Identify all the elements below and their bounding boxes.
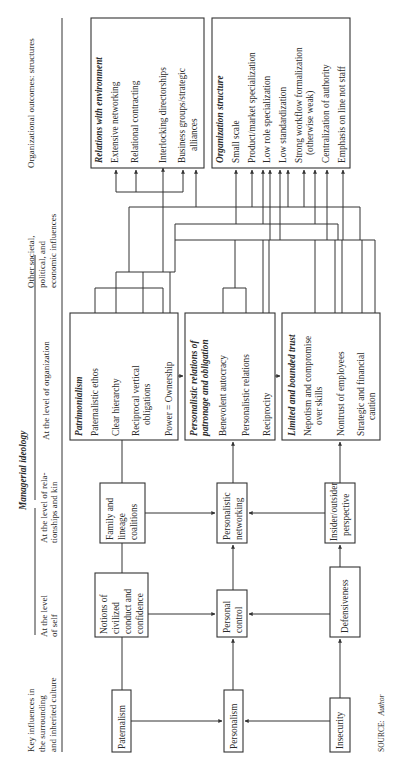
svg-text:Small scale: Small scale: [231, 120, 241, 163]
svg-text:Paternalism: Paternalism: [117, 704, 127, 749]
svg-text:Key influences in: Key influences in: [26, 688, 36, 752]
box-notions-civilized: Notions of civilized conduct and confide…: [95, 573, 148, 637]
svg-text:Low standardization: Low standardization: [278, 86, 288, 163]
svg-text:Reciprocity: Reciprocity: [262, 392, 272, 436]
svg-text:Relations with environment: Relations with environment: [94, 57, 104, 164]
svg-text:Business groups/strategic: Business groups/strategic: [177, 68, 187, 163]
svg-text:Notions of: Notions of: [99, 594, 109, 634]
svg-text:the surrounding: the surrounding: [37, 695, 47, 752]
box-relations-environment: Relations with environment Extensive net…: [91, 18, 204, 168]
svg-text:Organizational outcomes: struc: Organizational outcomes: structures: [26, 38, 36, 168]
svg-text:Emphasis on line not staff: Emphasis on line not staff: [337, 65, 347, 163]
svg-text:Personalistic relations: Personalistic relations: [241, 354, 251, 436]
box-personalistic-networking: Personalistic networking: [217, 483, 247, 543]
svg-text:Personalistic: Personalistic: [222, 492, 232, 540]
svg-text:confidence: confidence: [135, 593, 145, 634]
box-defensiveness: Defensiveness: [330, 567, 360, 637]
svg-text:Defensiveness: Defensiveness: [340, 579, 350, 633]
svg-text:and inherited culture: and inherited culture: [48, 678, 58, 752]
svg-text:Relational contracting: Relational contracting: [130, 80, 140, 163]
svg-text:political, and: political, and: [37, 241, 47, 288]
svg-text:Interlocking directorships: Interlocking directorships: [158, 67, 168, 163]
svg-text:At the level of rela-: At the level of rela-: [39, 473, 49, 543]
box-organization-structure: Organization structure Small scale Produ…: [212, 18, 350, 168]
svg-text:conduct and: conduct and: [123, 588, 133, 634]
box-insecurity: Insecurity: [330, 698, 350, 752]
svg-text:coalitions: coalitions: [129, 503, 139, 540]
svg-text:Reciprocal vertical: Reciprocal vertical: [131, 365, 141, 436]
svg-text:Personalistic relations of: Personalistic relations of: [189, 340, 199, 436]
svg-text:At the level: At the level: [39, 595, 49, 637]
svg-text:Insecurity: Insecurity: [335, 711, 345, 749]
svg-text:Low role specialization: Low role specialization: [262, 75, 272, 163]
svg-text:Strategic and financial: Strategic and financial: [356, 352, 366, 436]
svg-text:Extensive networking: Extensive networking: [110, 81, 120, 163]
svg-text:At the level of organization: At the level of organization: [41, 341, 51, 440]
header-managerial-ideology: Managerial ideology: [18, 430, 28, 511]
svg-text:lineage: lineage: [117, 513, 127, 540]
svg-text:Centralization of authority: Centralization of authority: [321, 64, 331, 163]
header-level-relationships: At the level of rela- tionships and kin: [39, 473, 59, 543]
box-family-lineage: Family and lineage coalitions: [100, 483, 145, 543]
header-key-influences: Key influences in the surrounding and in…: [26, 678, 58, 752]
svg-text:Power = Ownership: Power = Ownership: [164, 361, 174, 436]
svg-text:Organization structure: Organization structure: [215, 75, 225, 163]
header-other-influences: Other societal, political, and economic …: [26, 213, 58, 288]
svg-text:Personalism: Personalism: [229, 703, 239, 749]
svg-text:tionships and kin: tionships and kin: [49, 481, 59, 543]
svg-text:caution: caution: [367, 392, 377, 420]
svg-text:Managerial ideology: Managerial ideology: [18, 430, 28, 511]
box-limited-trust: Limited and bounded trust Nepotism and c…: [282, 313, 380, 440]
svg-text:perspective: perspective: [341, 494, 351, 536]
svg-text:Product/market specialization: Product/market specialization: [247, 52, 257, 163]
svg-text:of self: of self: [49, 614, 59, 637]
svg-text:patronage and obligation: patronage and obligation: [200, 339, 210, 437]
svg-text:Paternalistic ethos: Paternalistic ethos: [90, 368, 100, 436]
header-level-organization: At the level of organization: [41, 341, 51, 440]
svg-text:obligations: obligations: [142, 383, 152, 425]
svg-text:Nepotism and compromise: Nepotism and compromise: [303, 336, 313, 436]
svg-text:economic influences: economic influences: [48, 213, 58, 288]
box-patrimonialism: Patrimonialism Paternalistic ethos Clear…: [70, 313, 178, 440]
svg-text:networking: networking: [234, 497, 244, 540]
connector-lines: [95, 168, 375, 721]
svg-text:Family and: Family and: [105, 498, 115, 540]
svg-text:alliances: alliances: [189, 118, 199, 151]
svg-text:Clear hierarchy: Clear hierarchy: [111, 378, 121, 436]
box-personalism: Personalism: [224, 690, 243, 752]
box-personal-control: Personal control: [217, 590, 247, 637]
svg-text:Limited and bounded trust: Limited and bounded trust: [287, 334, 297, 437]
box-personalistic-relations: Personalistic relations of patronage and…: [185, 313, 275, 440]
svg-text:control: control: [234, 606, 244, 633]
box-insider-outsider: Insider/outsider perspective: [325, 482, 355, 543]
diagram-canvas: Key influences in the surrounding and in…: [0, 0, 408, 778]
svg-text:Insider/outsider: Insider/outsider: [329, 482, 339, 541]
svg-text:Other societal,: Other societal,: [26, 236, 36, 288]
svg-text:Strong workflow formalization: Strong workflow formalization: [294, 47, 304, 163]
svg-text:Personal: Personal: [222, 601, 232, 633]
box-paternalism: Paternalism: [112, 690, 131, 752]
svg-text:Patrimonialism: Patrimonialism: [74, 377, 84, 436]
svg-text:SOURCE: Author: SOURCE: Author: [377, 695, 386, 752]
svg-text:(otherwise weak): (otherwise weak): [305, 91, 316, 155]
header-outcomes: Organizational outcomes: structures: [26, 38, 36, 168]
source-note: SOURCE: Author: [377, 695, 386, 752]
svg-text:civilized: civilized: [111, 602, 121, 634]
svg-text:over skills: over skills: [314, 386, 324, 425]
svg-text:Benevolent autocracy: Benevolent autocracy: [218, 355, 228, 436]
header-level-self: At the level of self: [39, 595, 59, 637]
svg-text:Nontrust of employees: Nontrust of employees: [336, 351, 346, 436]
